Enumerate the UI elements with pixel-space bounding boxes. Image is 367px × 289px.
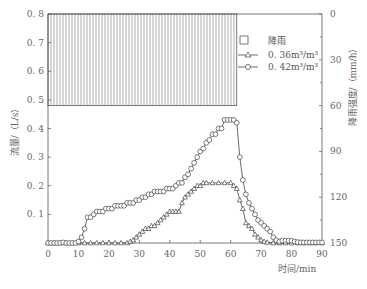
y2-tick-label: 90 bbox=[330, 146, 342, 156]
y-tick-label: 0. 1 bbox=[27, 209, 44, 219]
circle-marker bbox=[247, 201, 252, 206]
y2-tick-label: 0 bbox=[330, 9, 336, 19]
x-tick-label: 90 bbox=[316, 249, 328, 259]
rain-region bbox=[48, 14, 237, 106]
y2-axis-label: 降雨强度/（mm/h） bbox=[347, 44, 358, 127]
y2-tick-label: 30 bbox=[330, 55, 342, 65]
x-tick-label: 50 bbox=[194, 249, 206, 259]
y-axis-label: 流量/（L/s） bbox=[9, 104, 20, 157]
rainfall-bars bbox=[48, 14, 237, 106]
circle-marker bbox=[243, 192, 248, 197]
circle-marker bbox=[82, 226, 87, 231]
triangle-marker bbox=[210, 180, 215, 184]
triangle-marker bbox=[222, 180, 227, 184]
circle-marker bbox=[213, 132, 218, 137]
triangle-marker bbox=[180, 200, 185, 204]
circle-marker bbox=[234, 120, 239, 125]
circle-marker bbox=[268, 229, 273, 234]
circle-marker bbox=[79, 235, 84, 240]
x-tick-label: 70 bbox=[255, 249, 267, 259]
legend-series1-label: 0. 36m³/m³ bbox=[268, 50, 319, 60]
data-series bbox=[46, 118, 325, 246]
circle-marker bbox=[192, 160, 197, 165]
y-tick-label: 0. 6 bbox=[27, 66, 44, 76]
y-tick-label: 0. 2 bbox=[27, 181, 44, 191]
triangle-marker bbox=[253, 232, 258, 236]
triangle-marker bbox=[240, 206, 245, 210]
y-tick-label: 0. 8 bbox=[27, 9, 44, 19]
triangle-marker bbox=[237, 197, 242, 201]
x-tick-label: 40 bbox=[164, 249, 176, 259]
runoff-rainfall-chart: 01020304050607080900. 10. 20. 30. 40. 50… bbox=[0, 0, 367, 289]
triangle-marker bbox=[216, 180, 221, 184]
series-line bbox=[48, 120, 322, 243]
circle-marker-icon bbox=[245, 64, 250, 69]
y2-tick-label: 60 bbox=[330, 101, 342, 111]
y-tick-label: 0. 5 bbox=[27, 95, 44, 105]
x-tick-label: 0 bbox=[45, 249, 51, 259]
x-tick-label: 80 bbox=[286, 249, 298, 259]
triangle-marker-icon bbox=[245, 52, 251, 57]
x-tick-label: 20 bbox=[103, 249, 115, 259]
x-tick-label: 60 bbox=[225, 249, 237, 259]
circle-marker bbox=[195, 155, 200, 160]
circle-marker bbox=[237, 155, 242, 160]
circle-marker bbox=[201, 146, 206, 151]
legend-rain-swatch bbox=[240, 36, 248, 44]
x-tick-label: 10 bbox=[73, 249, 85, 259]
y2-tick-label: 150 bbox=[330, 238, 347, 248]
circle-marker bbox=[207, 138, 212, 143]
series-line bbox=[48, 183, 322, 243]
circle-marker bbox=[186, 172, 191, 177]
x-axis-label: 时间/min bbox=[278, 263, 316, 274]
circle-marker bbox=[240, 178, 245, 183]
legend-series2-label: 0. 42m³/m³ bbox=[268, 62, 319, 72]
circle-marker bbox=[189, 166, 194, 171]
legend: 降雨 0. 36m³/m³ 0. 42m³/m³ bbox=[238, 35, 319, 72]
circle-marker bbox=[250, 206, 255, 211]
triangle-marker bbox=[243, 220, 248, 224]
y-tick-label: 0. 7 bbox=[27, 38, 44, 48]
circle-marker bbox=[180, 180, 185, 185]
circle-marker bbox=[253, 212, 258, 217]
circle-marker bbox=[320, 240, 325, 245]
y2-tick-label: 120 bbox=[330, 192, 347, 202]
y-tick-label: 0. 3 bbox=[27, 152, 44, 162]
triangle-marker bbox=[228, 180, 233, 184]
legend-rain-label: 降雨 bbox=[268, 35, 286, 46]
circle-marker bbox=[76, 239, 81, 244]
circle-marker bbox=[219, 126, 224, 131]
y-tick-label: 0. 4 bbox=[27, 124, 44, 134]
x-tick-label: 30 bbox=[134, 249, 146, 259]
